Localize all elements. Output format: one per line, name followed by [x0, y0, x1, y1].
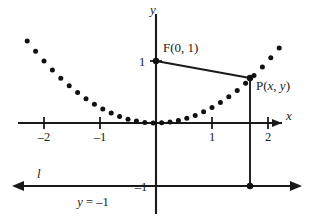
parabola-dot: [260, 65, 265, 70]
focus-point-marker: [153, 58, 159, 64]
parabola-dot: [226, 94, 231, 99]
parabola-dot: [201, 109, 206, 114]
parabola-dot: [42, 59, 47, 64]
parabola-dot: [58, 76, 63, 81]
parabola-dot: [193, 113, 198, 118]
parabola-dot: [109, 111, 114, 116]
x-axis-label: x: [285, 108, 292, 123]
parabola-dot: [243, 81, 248, 86]
parabola-dot: [210, 105, 215, 110]
parabola-dot: [268, 55, 273, 60]
parabola-dot: [277, 45, 282, 50]
parabola-dot: [168, 120, 173, 125]
x-tick-label-1: 1: [209, 130, 215, 144]
parabola-dot: [67, 83, 72, 88]
parabola-dot: [142, 120, 147, 125]
directrix-foot-marker: [247, 183, 253, 189]
parabola-dot: [235, 88, 240, 93]
parabola-dot: [100, 107, 105, 112]
parabola-dot: [176, 118, 181, 123]
parabola-dot: [126, 117, 131, 122]
y-tick-label-neg1: –1: [134, 180, 148, 194]
point-p-suffix: ): [286, 78, 290, 93]
focus-label: F(0, 1): [163, 40, 198, 55]
parabola-dot: [159, 120, 164, 125]
directrix-right-arrow-icon: [290, 181, 302, 191]
x-tick-label-neg2: –2: [37, 130, 51, 144]
x-axis-arrow-icon: [272, 119, 282, 127]
parabola-figure: y x –2 –1 1 2 1 –1 F(0, 1) P(x, y) l y =…: [0, 0, 309, 224]
parabola-dot: [84, 96, 89, 101]
directrix-equation-label: y = –1: [75, 195, 108, 209]
parabola-dot: [50, 67, 55, 72]
parabola-dot: [92, 102, 97, 107]
point-p-prefix: P(: [256, 78, 268, 93]
y-tick-label-1: 1: [139, 55, 145, 69]
directrix-name-label: l: [37, 166, 41, 181]
parabola-dot: [33, 49, 38, 54]
parabola-dot: [134, 119, 139, 124]
parabola-dot-series: [25, 39, 282, 126]
focal-radius-segment: [156, 61, 250, 78]
directrix-equation-rhs: = –1: [83, 195, 109, 209]
parabola-dot: [151, 120, 156, 125]
parabola-dot: [184, 116, 189, 121]
parabola-dot: [218, 100, 223, 105]
x-tick-label-neg1: –1: [93, 130, 107, 144]
point-p-label: P(x, y): [256, 78, 290, 93]
parabola-dot: [75, 90, 80, 95]
y-axis-label: y: [148, 2, 156, 17]
parabola-dot: [117, 114, 122, 119]
directrix-left-arrow-icon: [12, 181, 24, 191]
x-tick-label-2: 2: [265, 130, 271, 144]
point-p-marker: [247, 75, 253, 81]
parabola-dot: [25, 39, 30, 44]
